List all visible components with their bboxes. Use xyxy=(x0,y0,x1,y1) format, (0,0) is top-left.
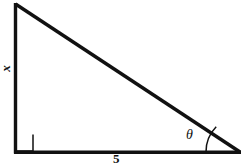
label-opposite-side: x xyxy=(0,65,12,72)
triangle-svg xyxy=(0,0,245,168)
label-angle-theta: θ xyxy=(186,128,193,142)
label-adjacent-side: 5 xyxy=(113,152,120,165)
right-angle-square-icon xyxy=(17,135,33,152)
hypotenuse-line xyxy=(16,4,241,152)
triangle-diagram: x 5 θ xyxy=(0,0,245,168)
